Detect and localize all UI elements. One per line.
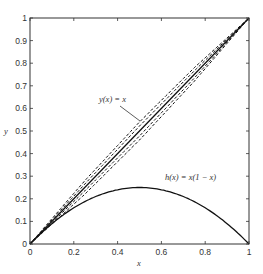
series-line	[30, 18, 249, 244]
x-tick-label: 0.4	[112, 247, 124, 257]
x-tick-label: 0.8	[199, 247, 211, 257]
x-axis-label: x	[136, 258, 141, 268]
y-tick-label: 0.8	[15, 58, 27, 68]
plot-lines	[30, 18, 249, 244]
y-tick-label: 0.9	[15, 36, 27, 46]
y-tick-label: 0	[22, 239, 27, 249]
annotation-h: h(x) = x(1 − x)	[165, 172, 216, 182]
y-tick-label: 1	[22, 13, 27, 23]
y-tick-label: 0.1	[15, 216, 27, 226]
x-tick-label: 1	[247, 247, 252, 257]
series-line	[30, 188, 249, 245]
annotation-pointer	[120, 106, 140, 121]
y-tick-label: 0.4	[15, 149, 27, 159]
chart: 00.20.40.60.8100.10.20.30.40.50.60.70.80…	[0, 0, 263, 274]
y-tick-label: 0.6	[15, 103, 27, 113]
annotation-identity: y(x) = x	[98, 94, 126, 104]
y-tick-label: 0.7	[15, 81, 27, 91]
x-tick-label: 0.6	[155, 247, 167, 257]
y-axis-label: y	[3, 126, 8, 136]
y-tick-label: 0.2	[15, 194, 27, 204]
y-tick-label: 0.3	[15, 171, 27, 181]
x-tick-label: 0	[28, 247, 33, 257]
y-tick-label: 0.5	[15, 126, 27, 136]
x-tick-label: 0.2	[68, 247, 80, 257]
